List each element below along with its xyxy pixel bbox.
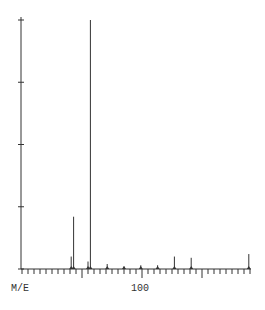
x-tick-label-100: 100 — [131, 283, 149, 294]
axes — [18, 17, 251, 278]
peak-base — [189, 266, 193, 269]
peak-base — [122, 266, 126, 269]
peaks — [69, 20, 251, 269]
peak-base — [156, 266, 160, 269]
x-axis-title: M/E — [11, 283, 29, 294]
peak-base — [105, 266, 109, 269]
mass-spectrum-chart — [0, 0, 265, 310]
peak-base — [247, 266, 251, 269]
peak-base — [172, 266, 176, 269]
peak-base — [139, 266, 143, 269]
